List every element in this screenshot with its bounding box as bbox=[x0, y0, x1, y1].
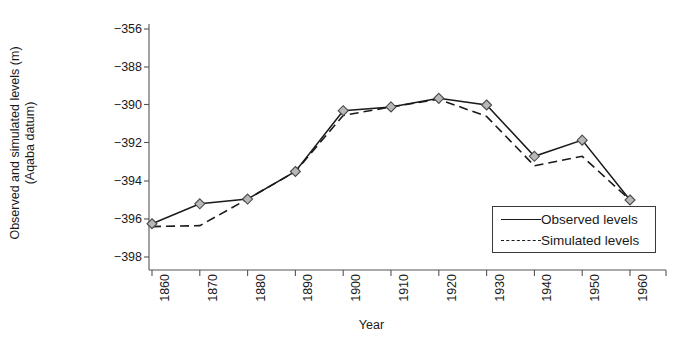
data-point-marker bbox=[243, 194, 253, 204]
legend-label-observed: Observed levels bbox=[541, 212, 638, 227]
x-axis-title: Year bbox=[0, 318, 683, 332]
x-tick-label: 1870 bbox=[206, 274, 220, 302]
x-axis-title-text: Year bbox=[359, 318, 384, 332]
x-tick-label: 1900 bbox=[349, 274, 363, 302]
legend-item-simulated: Simulated levels bbox=[499, 230, 639, 250]
x-tick-label: 1860 bbox=[158, 274, 172, 302]
legend-label-simulated: Simulated levels bbox=[541, 233, 639, 248]
data-point-marker bbox=[386, 102, 396, 112]
data-point-marker bbox=[195, 199, 205, 209]
chart-legend: Observed levels Simulated levels bbox=[492, 206, 656, 253]
legend-line-dashed-icon bbox=[499, 234, 541, 246]
x-tick-label: 1960 bbox=[636, 274, 650, 302]
x-tick-label: 1940 bbox=[540, 274, 554, 302]
x-tick-label: 1930 bbox=[493, 274, 507, 302]
x-axis-tick-labels: 1860187018801890190019101920193019401950… bbox=[0, 274, 683, 320]
legend-item-observed: Observed levels bbox=[499, 209, 638, 229]
data-point-marker bbox=[434, 93, 444, 103]
x-tick-label: 1920 bbox=[445, 274, 459, 302]
x-tick-label: 1890 bbox=[301, 274, 315, 302]
x-tick-label: 1880 bbox=[254, 274, 268, 302]
legend-line-solid-icon bbox=[499, 213, 541, 225]
x-tick-label: 1950 bbox=[588, 274, 602, 302]
x-tick-label: 1910 bbox=[397, 274, 411, 302]
chart-figure: Observed and simulated levels (m) (Aqaba… bbox=[0, 0, 683, 345]
series-line-observed-levels bbox=[152, 98, 630, 223]
